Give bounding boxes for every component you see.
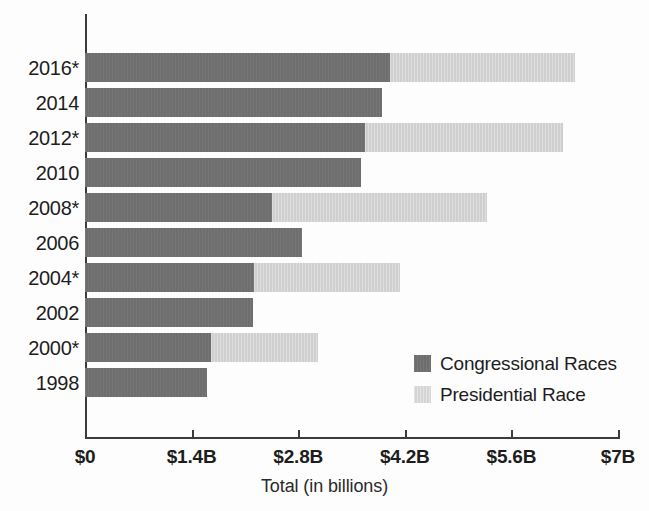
bar-segment-congressional — [85, 123, 365, 152]
bar-segment-presidential — [390, 53, 576, 82]
x-axis-line — [85, 437, 619, 439]
chart-legend: Congressional RacesPresidential Race — [414, 349, 617, 411]
x-axis-tick — [405, 430, 407, 439]
y-axis-tick-label: 2010 — [36, 161, 79, 184]
legend-label: Congressional Races — [440, 353, 617, 375]
y-axis-tick-label: 1998 — [36, 371, 79, 394]
bar-segment-congressional — [85, 263, 254, 292]
bar-row: 2010 — [0, 158, 649, 187]
x-axis-tick-label: $7B — [601, 446, 635, 468]
bar-row: 2012* — [0, 123, 649, 152]
x-axis-title: Total (in billions) — [0, 476, 649, 497]
bar-row: 2006 — [0, 228, 649, 257]
y-axis-tick-label: 2008* — [28, 196, 79, 219]
x-axis-tick — [511, 430, 513, 439]
legend-item: Presidential Race — [414, 380, 617, 409]
x-axis-tick-label: $2.8B — [273, 446, 323, 468]
legend-label: Presidential Race — [440, 384, 586, 406]
bar-segment-congressional — [85, 368, 207, 397]
x-axis-tick — [192, 430, 194, 439]
legend-item: Congressional Races — [414, 349, 617, 378]
x-axis-tick — [85, 430, 87, 439]
x-axis-tick-label: $4.2B — [380, 446, 430, 468]
bar-segment-congressional — [85, 193, 272, 222]
y-axis-tick-label: 2006 — [36, 231, 79, 254]
legend-swatch-icon — [414, 386, 431, 403]
bar-row: 2014 — [0, 88, 649, 117]
bar-segment-presidential — [272, 193, 487, 222]
bar-row: 2004* — [0, 263, 649, 292]
x-axis-tick-label: $5.6B — [487, 446, 537, 468]
y-axis-tick-label: 2000* — [28, 336, 79, 359]
x-axis-tick-label: $1.4B — [167, 446, 217, 468]
bar-segment-presidential — [211, 333, 318, 362]
bar-segment-congressional — [85, 53, 390, 82]
bar-row: 2008* — [0, 193, 649, 222]
y-axis-tick-label: 2002 — [36, 301, 79, 324]
bar-row: 2002 — [0, 298, 649, 327]
x-axis-tick — [298, 430, 300, 439]
bar-segment-presidential — [254, 263, 400, 292]
bar-segment-congressional — [85, 298, 253, 327]
bar-row: 2016* — [0, 53, 649, 82]
bar-segment-congressional — [85, 158, 361, 187]
election-spending-bar-chart: 2016*20142012*20102008*20062004*20022000… — [0, 0, 649, 511]
bar-segment-presidential — [365, 123, 563, 152]
bar-segment-congressional — [85, 228, 302, 257]
y-axis-tick-label: 2004* — [28, 266, 79, 289]
y-axis-tick-label: 2016* — [28, 56, 79, 79]
legend-swatch-icon — [414, 355, 431, 372]
bar-segment-congressional — [85, 333, 211, 362]
x-axis-tick-label: $0 — [75, 446, 96, 468]
x-axis-tick — [618, 430, 620, 439]
y-axis-tick-label: 2014 — [36, 91, 79, 114]
bar-segment-congressional — [85, 88, 382, 117]
y-axis-tick-label: 2012* — [28, 126, 79, 149]
